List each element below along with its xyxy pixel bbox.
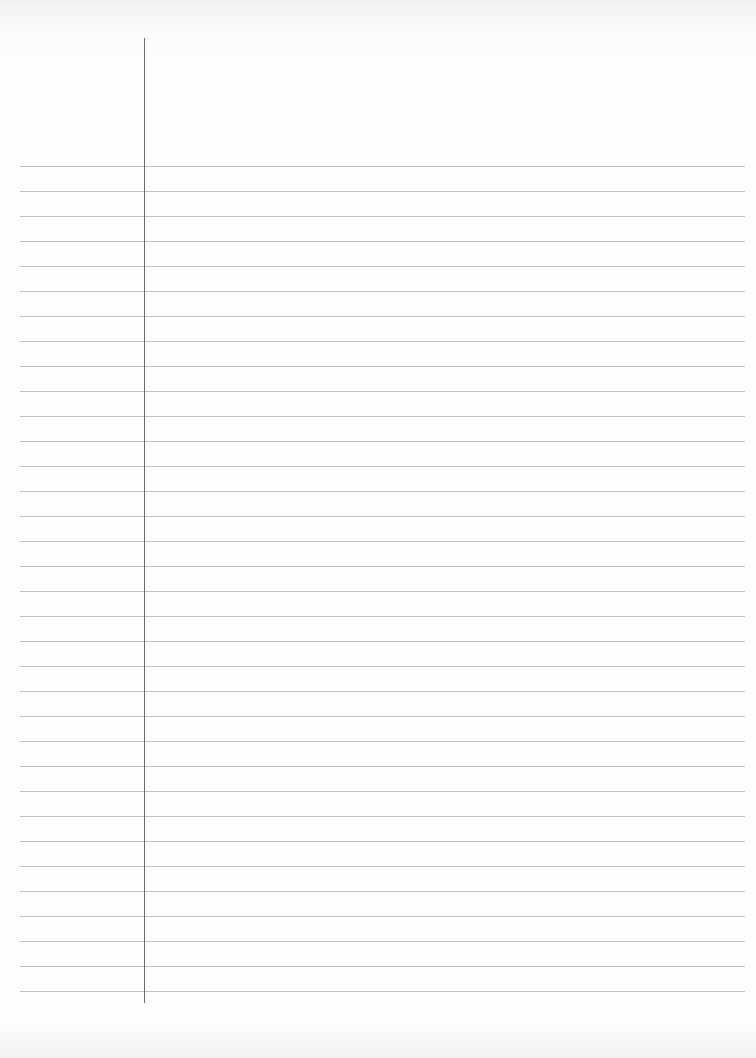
ruled-line — [20, 691, 745, 692]
ruled-line — [20, 741, 745, 742]
ruled-line — [20, 191, 745, 192]
ruled-line — [20, 591, 745, 592]
ruled-line — [20, 641, 745, 642]
ruled-line — [20, 266, 745, 267]
ruled-line — [20, 616, 745, 617]
ruled-line — [20, 891, 745, 892]
ruled-line — [20, 441, 745, 442]
ruled-line — [20, 766, 745, 767]
ruled-line — [20, 791, 745, 792]
ruled-line — [20, 216, 745, 217]
ruled-line — [20, 966, 745, 967]
ruled-line — [20, 366, 745, 367]
ruled-line — [20, 941, 745, 942]
ruled-line — [20, 841, 745, 842]
ruled-line — [20, 866, 745, 867]
ruled-line — [20, 166, 745, 167]
ruled-line — [20, 916, 745, 917]
margin-line — [144, 38, 145, 1003]
ruled-line — [20, 816, 745, 817]
ruled-line — [20, 491, 745, 492]
ruled-line — [20, 341, 745, 342]
ruled-line — [20, 241, 745, 242]
ruled-line — [20, 291, 745, 292]
ruled-line — [20, 566, 745, 567]
ruled-line — [20, 991, 745, 992]
ruled-line — [20, 716, 745, 717]
ruled-line — [20, 391, 745, 392]
lined-paper-page — [0, 0, 756, 1058]
ruled-line — [20, 541, 745, 542]
ruled-line — [20, 316, 745, 317]
ruled-line — [20, 516, 745, 517]
ruled-line — [20, 466, 745, 467]
ruled-line — [20, 666, 745, 667]
ruled-line — [20, 416, 745, 417]
